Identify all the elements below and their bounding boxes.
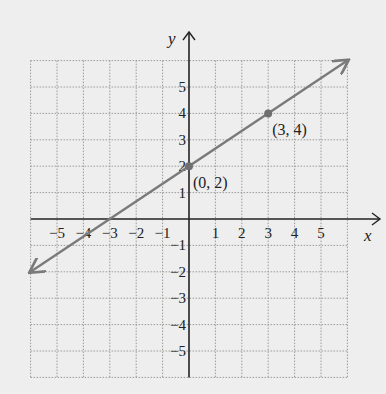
y-tick-label: −3 xyxy=(170,290,186,306)
data-point xyxy=(185,162,193,170)
x-tick-label: 4 xyxy=(291,225,299,241)
data-point xyxy=(264,109,272,117)
point-label: (3, 4) xyxy=(272,121,307,139)
x-tick-label: 3 xyxy=(264,225,272,241)
x-tick-label: 5 xyxy=(317,225,325,241)
x-axis-label: x xyxy=(363,226,372,245)
x-tick-label: 1 xyxy=(212,225,220,241)
x-tick-label: −5 xyxy=(49,225,65,241)
y-axis-label: y xyxy=(166,29,176,48)
y-tick-label: 3 xyxy=(179,132,187,148)
y-tick-label: 4 xyxy=(179,105,187,121)
point-label: (0, 2) xyxy=(193,174,228,192)
x-tick-label: 2 xyxy=(238,225,246,241)
x-tick-label: −2 xyxy=(128,225,144,241)
y-tick-label: 5 xyxy=(179,79,187,95)
coordinate-plane: −5−4−3−2−112345−5−4−3−2−112345 (0, 2)(3,… xyxy=(0,0,386,394)
y-tick-label: −1 xyxy=(170,237,186,253)
y-tick-label: −5 xyxy=(170,343,186,359)
y-tick-label: −4 xyxy=(170,317,186,333)
x-tick-label: −3 xyxy=(102,225,118,241)
y-tick-label: −2 xyxy=(170,264,186,280)
data-points: (0, 2)(3, 4) xyxy=(185,109,307,192)
y-tick-label: 1 xyxy=(179,185,187,201)
x-tick-label: −1 xyxy=(155,225,171,241)
